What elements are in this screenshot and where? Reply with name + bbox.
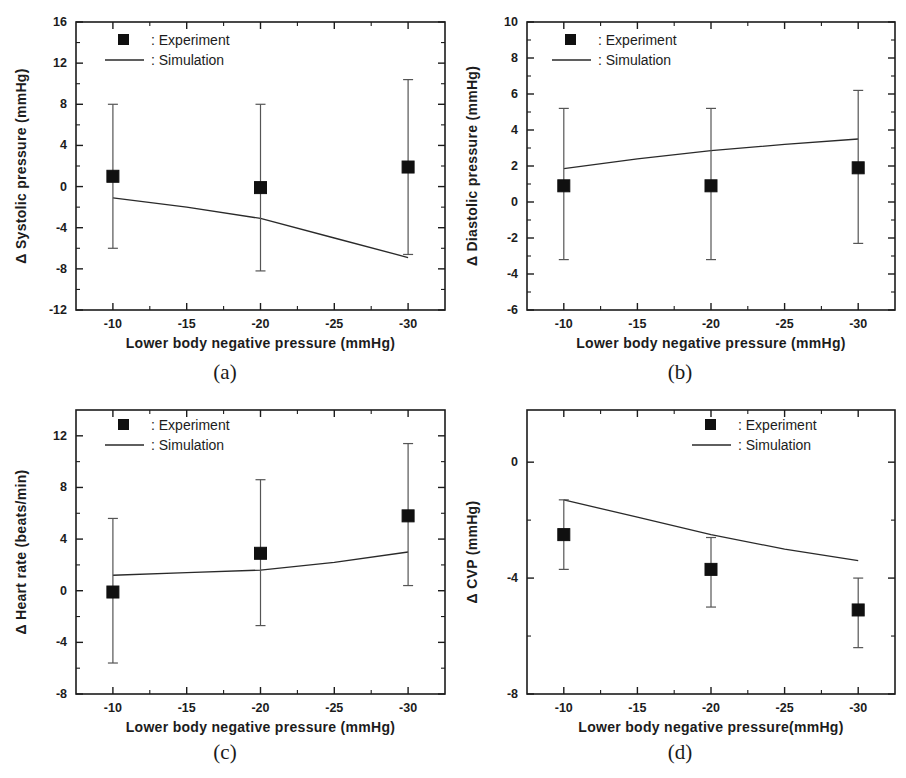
experiment-marker — [852, 162, 864, 174]
y-axis-title: Δ Heart rate (beats/min) — [13, 469, 29, 634]
experiment-marker — [852, 604, 864, 616]
y-tick-label: -4 — [56, 635, 67, 649]
data-point-group — [705, 108, 717, 259]
caption-b: (b) — [640, 360, 720, 385]
panel-d: -10-15-20-25-30-8-40: Experiment: Simula… — [455, 392, 906, 740]
experiment-marker — [255, 182, 267, 194]
x-tick-label: -30 — [849, 317, 867, 331]
experiment-marker — [255, 547, 267, 559]
legend: : Experiment: Simulation — [552, 32, 677, 68]
x-tick-label: -15 — [628, 701, 646, 715]
experiment-marker — [402, 161, 414, 173]
y-tick-label: -8 — [507, 687, 518, 701]
x-tick-label: -20 — [702, 317, 720, 331]
legend-simulation-label: : Simulation — [151, 52, 224, 68]
y-tick-label: -4 — [507, 571, 518, 585]
y-tick-label: -4 — [507, 267, 518, 281]
legend-experiment-marker — [118, 34, 129, 45]
legend-experiment-marker — [118, 419, 129, 430]
experiment-marker — [705, 563, 717, 575]
legend-experiment-marker — [705, 419, 716, 430]
x-tick-label: -25 — [776, 317, 794, 331]
legend-simulation-label: : Simulation — [738, 437, 811, 453]
y-tick-label: 4 — [60, 138, 67, 152]
data-point-group — [558, 500, 570, 570]
y-tick-label: 4 — [511, 123, 518, 137]
y-tick-label: 2 — [511, 159, 518, 173]
panel-b-plot: -10-15-20-25-30-6-4-20246810: Experiment… — [455, 0, 906, 355]
legend-experiment-label: : Experiment — [738, 417, 817, 433]
y-axis-title: Δ Systolic pressure (mmHg) — [13, 68, 29, 263]
experiment-marker — [558, 529, 570, 541]
caption-a: (a) — [185, 360, 265, 385]
x-axis-title: Lower body negative pressure(mmHg) — [578, 719, 843, 735]
data-point-group — [558, 108, 570, 259]
legend-simulation-label: : Simulation — [151, 437, 224, 453]
legend: : Experiment: Simulation — [105, 417, 230, 453]
x-axis-title: Lower body negative pressure (mmHg) — [126, 719, 396, 735]
panel-b: -10-15-20-25-30-6-4-20246810: Experiment… — [455, 0, 906, 355]
y-tick-label: 8 — [511, 51, 518, 65]
y-tick-label: 0 — [60, 584, 67, 598]
x-tick-label: -25 — [776, 701, 794, 715]
legend-experiment-label: : Experiment — [151, 32, 230, 48]
x-tick-label: -10 — [555, 317, 573, 331]
experiment-marker — [402, 510, 414, 522]
panel-d-plot: -10-15-20-25-30-8-40: Experiment: Simula… — [455, 392, 906, 740]
experiment-marker — [107, 586, 119, 598]
y-tick-label: 6 — [511, 87, 518, 101]
data-point-group — [255, 104, 267, 271]
y-tick-label: 8 — [60, 97, 67, 111]
x-tick-label: -10 — [104, 701, 122, 715]
y-tick-label: -6 — [507, 303, 518, 317]
x-axis-title: Lower body negative pressure (mmHg) — [126, 335, 396, 351]
panel-a-plot: -10-15-20-25-30-12-8-40481216: Experimen… — [0, 0, 460, 355]
y-tick-label: -8 — [56, 262, 67, 276]
y-tick-label: 0 — [511, 455, 518, 469]
x-tick-label: -30 — [399, 317, 417, 331]
panel-c-plot: -10-15-20-25-30-8-404812: Experiment: Si… — [0, 392, 460, 740]
panel-c: -10-15-20-25-30-8-404812: Experiment: Si… — [0, 392, 460, 740]
x-tick-label: -20 — [251, 317, 269, 331]
data-point-group — [402, 80, 414, 255]
x-tick-label: -30 — [849, 701, 867, 715]
data-point-group — [402, 444, 414, 586]
y-tick-label: 4 — [60, 532, 67, 546]
y-axis-title: Δ CVP (mmHg) — [464, 501, 480, 604]
x-tick-label: -10 — [104, 317, 122, 331]
y-tick-label: -4 — [56, 221, 67, 235]
legend-experiment-marker — [565, 34, 576, 45]
y-tick-label: 10 — [504, 15, 518, 29]
caption-c: (c) — [185, 740, 265, 765]
data-point-group — [852, 90, 864, 243]
x-tick-label: -30 — [399, 701, 417, 715]
legend: : Experiment: Simulation — [692, 417, 817, 453]
y-tick-label: -2 — [507, 231, 518, 245]
x-tick-label: -20 — [702, 701, 720, 715]
x-tick-label: -25 — [325, 701, 343, 715]
y-tick-label: 8 — [60, 480, 67, 494]
y-tick-label: 16 — [53, 15, 67, 29]
x-tick-label: -15 — [178, 701, 196, 715]
legend-experiment-label: : Experiment — [151, 417, 230, 433]
x-tick-label: -20 — [251, 701, 269, 715]
y-tick-label: 0 — [60, 180, 67, 194]
y-tick-label: 12 — [53, 429, 67, 443]
caption-d: (d) — [640, 740, 720, 765]
panel-a: -10-15-20-25-30-12-8-40481216: Experimen… — [0, 0, 460, 355]
experiment-marker — [705, 180, 717, 192]
y-tick-label: 12 — [53, 56, 67, 70]
x-tick-label: -25 — [325, 317, 343, 331]
data-point-group — [107, 104, 119, 248]
data-point-group — [107, 518, 119, 663]
x-tick-label: -10 — [555, 701, 573, 715]
x-tick-label: -15 — [628, 317, 646, 331]
data-point-group — [255, 480, 267, 626]
x-tick-label: -15 — [178, 317, 196, 331]
legend: : Experiment: Simulation — [105, 32, 230, 68]
experiment-marker — [107, 170, 119, 182]
legend-simulation-label: : Simulation — [598, 52, 671, 68]
y-axis-title: Δ Diastolic pressure (mmHg) — [464, 66, 480, 266]
y-tick-label: -12 — [49, 303, 67, 317]
experiment-marker — [558, 180, 570, 192]
